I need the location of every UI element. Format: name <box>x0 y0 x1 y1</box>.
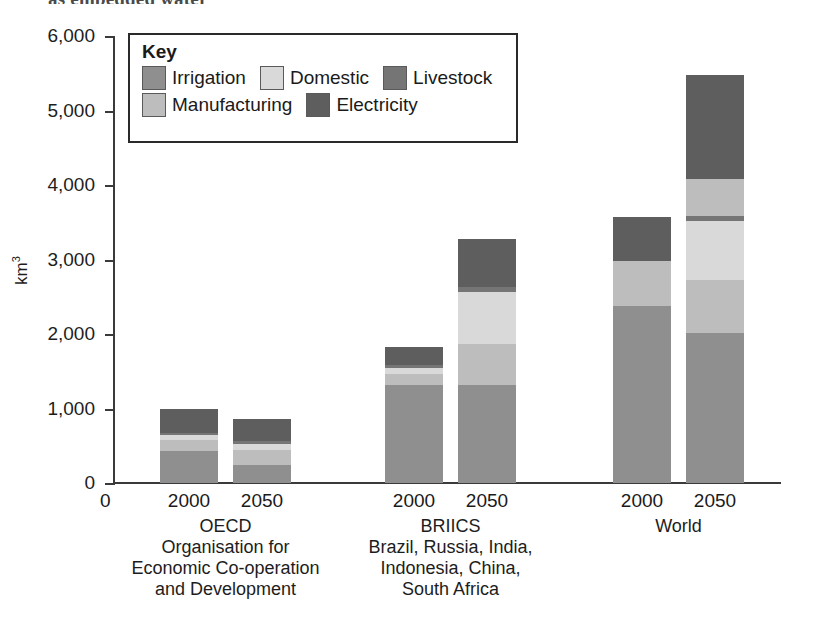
group-caption-line: South Africa <box>326 579 576 600</box>
bar-world-2000[interactable] <box>613 217 671 483</box>
bar-oecd-2050[interactable] <box>233 419 291 483</box>
bar-segment-manufacturing <box>613 261 671 306</box>
bar-segment-manufacturing <box>160 440 218 451</box>
y-tick-label-6000: 6,000 <box>17 25 95 47</box>
x-label-briics-2000: 2000 <box>374 490 454 512</box>
bar-segment-electricity <box>613 217 671 261</box>
y-tick-label-2000: 2,000 <box>17 323 95 345</box>
legend-title: Key <box>142 42 506 62</box>
legend-swatch-livestock-icon <box>383 66 407 90</box>
x-label-briics-2050: 2050 <box>447 490 527 512</box>
group-caption-oecd: OECDOrganisation forEconomic Co-operatio… <box>101 516 351 600</box>
bar-segment-electricity <box>160 409 218 433</box>
bar-briics-2050[interactable] <box>458 239 516 483</box>
group-caption-line: and Development <box>101 579 351 600</box>
group-caption-briics: BRIICSBrazil, Russia, India,Indonesia, C… <box>326 516 576 600</box>
group-caption-world: World <box>554 516 804 537</box>
group-caption-line: World <box>554 516 804 537</box>
legend-row-2: ManufacturingElectricity <box>142 93 506 117</box>
x-label-oecd-2000: 2000 <box>149 490 229 512</box>
legend-label: Electricity <box>336 94 417 116</box>
legend-row-1: IrrigationDomesticLivestock <box>142 66 506 90</box>
legend-swatch-manufacturing-icon <box>142 93 166 117</box>
x-origin-label: 0 <box>100 490 111 512</box>
bar-segment-manufacturing <box>458 344 516 386</box>
y-tick-label-0: 0 <box>17 472 95 494</box>
bar-segment-irrigation <box>686 333 744 483</box>
bar-segment-irrigation <box>458 385 516 483</box>
group-caption-line: Economic Co-operation <box>101 558 351 579</box>
bar-segment-domestic <box>233 444 291 451</box>
legend-item-manufacturing[interactable]: Manufacturing <box>142 93 292 117</box>
bar-segment-electricity <box>458 239 516 287</box>
bar-segment-manufacturing <box>686 280 744 332</box>
bar-segment-electricity <box>233 419 291 441</box>
legend-label: Manufacturing <box>172 94 292 116</box>
bar-segment-domestic <box>686 221 744 281</box>
legend-item-domestic[interactable]: Domestic <box>260 66 369 90</box>
legend-label: Livestock <box>413 67 492 89</box>
legend-swatch-domestic-icon <box>260 66 284 90</box>
x-label-world-2000: 2000 <box>602 490 682 512</box>
y-axis-title-text: km <box>12 262 31 285</box>
bar-segment-manufacturing <box>686 179 744 216</box>
bar-world-2050[interactable] <box>686 75 744 483</box>
legend-item-livestock[interactable]: Livestock <box>383 66 492 90</box>
legend-swatch-electricity-icon <box>306 93 330 117</box>
chart-canvas: as embedded water 6,0005,0004,0003,0002,… <box>0 0 824 625</box>
y-tick-label-1000: 1,000 <box>17 398 95 420</box>
group-caption-line: Brazil, Russia, India, <box>326 537 576 558</box>
y-tick-0 <box>105 483 115 485</box>
bar-segment-irrigation <box>160 451 218 483</box>
legend-item-irrigation[interactable]: Irrigation <box>142 66 246 90</box>
group-caption-line: BRIICS <box>326 516 576 537</box>
group-caption-line: Organisation for <box>101 537 351 558</box>
legend-swatch-irrigation-icon <box>142 66 166 90</box>
legend-box: Key IrrigationDomesticLivestock Manufact… <box>128 33 518 143</box>
y-tick-label-5000: 5,000 <box>17 100 95 122</box>
y-axis-title: km3 <box>10 256 32 285</box>
x-label-oecd-2050: 2050 <box>222 490 302 512</box>
bar-segment-electricity <box>686 75 744 179</box>
bar-briics-2000[interactable] <box>385 347 443 483</box>
bar-segment-domestic <box>458 292 516 344</box>
bar-segment-manufacturing <box>233 450 291 465</box>
legend-label: Irrigation <box>172 67 246 89</box>
group-caption-line: OECD <box>101 516 351 537</box>
legend-label: Domestic <box>290 67 369 89</box>
y-axis-title-exponent: 3 <box>10 256 22 262</box>
x-label-world-2050: 2050 <box>675 490 755 512</box>
legend-item-electricity[interactable]: Electricity <box>306 93 417 117</box>
y-tick-label-4000: 4,000 <box>17 174 95 196</box>
bar-oecd-2000[interactable] <box>160 409 218 483</box>
bar-segment-manufacturing <box>385 374 443 385</box>
bar-segment-electricity <box>385 347 443 364</box>
bar-segment-irrigation <box>613 306 671 483</box>
bar-segment-irrigation <box>233 465 291 483</box>
clipped-caption: as embedded water <box>48 0 208 4</box>
group-caption-line: Indonesia, China, <box>326 558 576 579</box>
bar-segment-irrigation <box>385 385 443 483</box>
